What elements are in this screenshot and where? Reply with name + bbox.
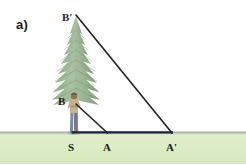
point-label-b-prime: B' — [62, 12, 72, 23]
point-label-a-prime: A' — [166, 142, 177, 153]
point-label-b: B — [58, 96, 65, 107]
similar-triangles-figure: a) B' B S A A' — [0, 0, 246, 164]
figure-canvas — [0, 0, 246, 164]
line-bprime-aprime — [76, 15, 172, 133]
ground-band — [0, 132, 246, 165]
panel-label: a) — [16, 18, 28, 31]
point-label-s: S — [68, 142, 74, 153]
line-b-a — [76, 104, 108, 133]
point-label-a: A — [103, 142, 111, 153]
